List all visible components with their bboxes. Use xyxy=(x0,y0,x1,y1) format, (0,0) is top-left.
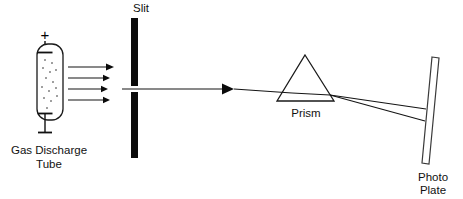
emission-arrow xyxy=(68,97,110,103)
ray-inside-prism xyxy=(292,93,330,95)
slit-group: Slit xyxy=(131,2,150,158)
gas-discharge-tube-label-line1: Gas Discharge xyxy=(11,144,87,156)
optics-diagram: + xyxy=(0,0,463,199)
dispersed-ray-1 xyxy=(330,95,426,109)
photo-plate-label-line2: Plate xyxy=(420,184,446,196)
slit-lower-bar xyxy=(131,92,138,158)
photo-plate-body xyxy=(422,57,439,164)
photo-plate-label-line1: Photo xyxy=(418,171,448,183)
gas-discharge-tube-label-line2: Tube xyxy=(36,158,62,170)
emission-arrow xyxy=(68,75,110,81)
prism-label: Prism xyxy=(291,107,320,119)
diagram-canvas: + xyxy=(0,0,463,199)
slit-label: Slit xyxy=(133,2,150,14)
tube-body xyxy=(37,44,63,120)
prism-group: Prism xyxy=(277,55,334,119)
emission-arrows-group xyxy=(68,64,114,104)
collimated-beam-arrow xyxy=(122,84,234,95)
photo-plate-group: Photo Plate xyxy=(418,57,448,196)
dispersed-ray-2 xyxy=(330,95,425,121)
emission-arrow xyxy=(68,86,108,92)
slit-upper-bar xyxy=(131,18,138,86)
anode-plus-sign: + xyxy=(41,26,50,43)
gas-discharge-tube-group: + xyxy=(11,26,87,170)
emission-arrow xyxy=(68,64,114,71)
